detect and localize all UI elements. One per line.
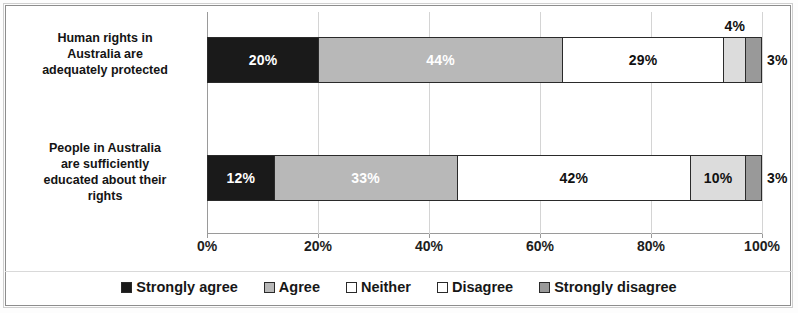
bar-segment: 4%: [723, 37, 745, 83]
bar-segment: 10%: [690, 155, 746, 201]
stacked-bar-row-1: 12%33%42%10%3%: [207, 155, 762, 201]
legend-swatch-icon: [121, 282, 132, 293]
bar-segment: 33%: [274, 155, 457, 201]
category-label-line: Human rights in: [14, 30, 196, 46]
legend-label: Agree: [279, 279, 320, 295]
bar-segment-value-label-above: 4%: [724, 18, 745, 34]
x-axis-tick-label: 40%: [415, 238, 443, 254]
bar-segment-value-label-outside: 3%: [767, 170, 788, 186]
legend-swatch-icon: [346, 282, 357, 293]
bar-segment-value-label: 10%: [704, 170, 733, 186]
category-label-line: Australia are: [14, 46, 196, 62]
bar-segment-value-label-outside: 3%: [767, 52, 788, 68]
x-axis-tick-label: 20%: [304, 238, 332, 254]
legend-label: Neither: [361, 279, 411, 295]
category-label-line: educated about their: [14, 172, 196, 188]
category-label-line: are sufficiently: [14, 156, 196, 172]
category-label-human-rights: Human rights inAustralia areadequately p…: [14, 30, 196, 78]
legend-label: Strongly disagree: [554, 279, 676, 295]
x-axis-tick-label: 80%: [637, 238, 665, 254]
category-label-line: rights: [14, 188, 196, 204]
bar-segment-value-label: 44%: [426, 52, 455, 68]
bar-segment-value-label: 33%: [351, 170, 380, 186]
bar-segment: 29%: [562, 37, 723, 83]
legend-swatch-icon: [264, 282, 275, 293]
category-label-education: People in Australiaare sufficientlyeduca…: [14, 140, 196, 204]
x-axis-line: [207, 233, 762, 234]
legend-item[interactable]: Agree: [264, 279, 320, 295]
legend-item[interactable]: Strongly disagree: [539, 279, 676, 295]
category-label-line: People in Australia: [14, 140, 196, 156]
bar-segment: 42%: [457, 155, 690, 201]
legend-swatch-icon: [437, 282, 448, 293]
legend-item[interactable]: Neither: [346, 279, 411, 295]
legend-swatch-icon: [539, 282, 550, 293]
bar-segment: 3%: [745, 155, 762, 201]
x-axis-tick-label: 100%: [744, 238, 780, 254]
bar-segment: 20%: [207, 37, 318, 83]
x-axis-tick-label: 60%: [526, 238, 554, 254]
chart-legend: Strongly agreeAgreeNeitherDisagreeStrong…: [5, 271, 793, 302]
legend-label: Strongly agree: [136, 279, 238, 295]
legend-label: Disagree: [452, 279, 513, 295]
stacked-bar-row-0: 20%44%29%4%3%: [207, 37, 762, 83]
bar-segment-value-label: 20%: [249, 52, 278, 68]
gridline: [762, 12, 763, 234]
legend-item[interactable]: Strongly agree: [121, 279, 238, 295]
plot-area: 20%44%29%4%3% 12%33%42%10%3%: [207, 12, 762, 234]
bar-segment-value-label: 12%: [226, 170, 255, 186]
chart-figure: Human rights inAustralia areadequately p…: [0, 0, 798, 313]
x-axis-tick-label: 0%: [197, 238, 217, 254]
bar-segment-value-label: 29%: [629, 52, 658, 68]
bar-segment-value-label: 42%: [559, 170, 588, 186]
legend-item[interactable]: Disagree: [437, 279, 513, 295]
bar-segment: 44%: [318, 37, 562, 83]
bar-segment: 12%: [207, 155, 274, 201]
bar-segment: 3%: [745, 37, 762, 83]
category-label-line: adequately protected: [14, 62, 196, 78]
